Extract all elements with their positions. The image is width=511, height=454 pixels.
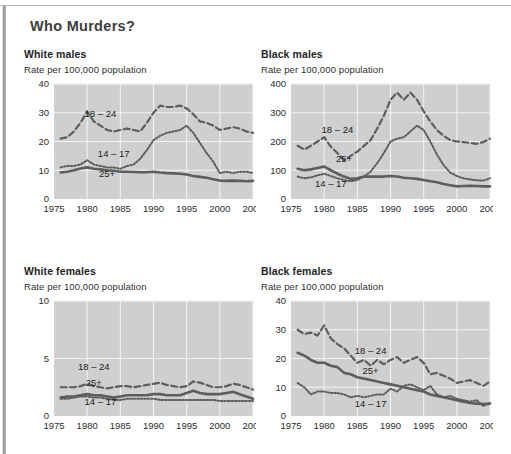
x-tick-label: 1985	[347, 203, 368, 214]
series-label: 25+	[336, 153, 353, 164]
chart-white-males: 010203040197519801985199019952000200518 …	[24, 78, 256, 223]
x-tick-label: 2005	[242, 203, 256, 214]
x-tick-label: 2000	[446, 203, 467, 214]
chart-title-black-males: Black males	[261, 48, 493, 60]
x-tick-label: 1980	[314, 420, 335, 431]
page-sheet: Who Murders? White males Rate per 100,00…	[6, 6, 511, 454]
series-label: 18 – 24	[85, 108, 117, 119]
x-tick-label: 1975	[43, 203, 64, 214]
x-tick-label: 1980	[77, 420, 98, 431]
x-tick-label: 1980	[77, 203, 98, 214]
chart-black-females: 010203040197519801985199019952000200518 …	[261, 295, 493, 440]
y-tick-label: 30	[38, 107, 49, 118]
y-tick-label: 20	[38, 136, 49, 147]
chart-subtitle-black-females: Rate per 100,000 population	[261, 281, 493, 292]
y-tick-label: 200	[270, 136, 286, 147]
chart-panel-black-females: Black females Rate per 100,000 populatio…	[261, 265, 493, 440]
y-tick-label: 300	[270, 107, 286, 118]
x-tick-label: 1995	[176, 203, 197, 214]
x-tick-label: 2000	[446, 420, 467, 431]
chart-title-white-males: White males	[24, 48, 256, 60]
x-tick-label: 1975	[43, 420, 64, 431]
y-tick-label: 30	[275, 324, 286, 335]
y-tick-label: 10	[38, 165, 49, 176]
x-tick-label: 1985	[347, 420, 368, 431]
chart-title-white-females: White females	[24, 265, 256, 277]
x-tick-label: 1995	[176, 420, 197, 431]
x-tick-label: 2005	[479, 420, 493, 431]
x-tick-label: 1990	[143, 420, 164, 431]
chart-subtitle-white-females: Rate per 100,000 population	[24, 281, 256, 292]
series-label: 18 – 24	[355, 345, 387, 356]
chart-panel-white-females: White females Rate per 100,000 populatio…	[24, 265, 256, 440]
x-tick-label: 1995	[413, 203, 434, 214]
x-tick-label: 2000	[209, 420, 230, 431]
y-tick-label: 5	[44, 353, 49, 364]
y-tick-label: 10	[275, 382, 286, 393]
series-label: 14 – 17	[355, 398, 387, 409]
x-tick-label: 1975	[280, 203, 301, 214]
chart-black-males: 0100200300400197519801985199019952000200…	[261, 78, 493, 223]
x-tick-label: 1990	[380, 420, 401, 431]
page-title: Who Murders?	[30, 18, 135, 34]
series-label: 18 – 24	[322, 124, 354, 135]
x-tick-label: 1980	[314, 203, 335, 214]
x-tick-label: 1990	[380, 203, 401, 214]
chart-panel-black-males: Black males Rate per 100,000 population …	[261, 48, 493, 223]
series-label: 14 – 17	[98, 148, 130, 159]
y-tick-label: 100	[270, 165, 286, 176]
x-tick-label: 1985	[110, 420, 131, 431]
x-tick-label: 1975	[280, 420, 301, 431]
series-label: 14 – 17	[315, 178, 347, 189]
series-label: 25+	[99, 168, 116, 179]
x-tick-label: 2000	[209, 203, 230, 214]
chart-panel-white-males: White males Rate per 100,000 population …	[24, 48, 256, 223]
x-tick-label: 2005	[242, 420, 256, 431]
x-tick-label: 1990	[143, 203, 164, 214]
chart-subtitle-black-males: Rate per 100,000 population	[261, 64, 493, 75]
chart-title-black-females: Black females	[261, 265, 493, 277]
x-tick-label: 2005	[479, 203, 493, 214]
x-tick-label: 1985	[110, 203, 131, 214]
series-label: 25+	[86, 377, 103, 388]
series-label: 25+	[363, 365, 380, 376]
y-tick-label: 40	[38, 78, 49, 89]
y-tick-label: 400	[270, 78, 286, 89]
y-tick-label: 10	[38, 295, 49, 306]
chart-white-females: 0510197519801985199019952000200518 – 242…	[24, 295, 256, 440]
y-tick-label: 20	[275, 353, 286, 364]
x-tick-label: 1995	[413, 420, 434, 431]
series-label: 18 – 24	[78, 361, 110, 372]
chart-subtitle-white-males: Rate per 100,000 population	[24, 64, 256, 75]
series-label: 14 – 17	[85, 396, 117, 407]
y-tick-label: 40	[275, 295, 286, 306]
